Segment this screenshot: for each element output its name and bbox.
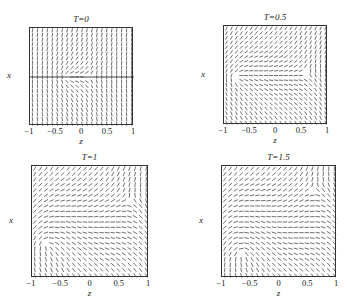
plot-area xyxy=(29,27,133,125)
x-tick-label: 0 xyxy=(273,125,277,135)
x-tick-label: −1 xyxy=(24,126,33,136)
chart-title: T=1.5 xyxy=(267,152,289,162)
director-field xyxy=(224,26,328,125)
x-tick-label: 1 xyxy=(334,278,338,288)
x-tick-label: 0 xyxy=(276,278,280,288)
x-tick-label: 0.5 xyxy=(113,278,124,288)
x-tick-label: −0.5 xyxy=(47,126,62,136)
x-tick-label: 1 xyxy=(146,278,150,288)
x-tick-label: 1 xyxy=(131,126,135,136)
plot-area xyxy=(31,165,148,277)
director-field xyxy=(32,166,149,278)
y-axis-label: x xyxy=(9,215,13,225)
x-tick-label: −1 xyxy=(218,125,227,135)
director-field xyxy=(222,166,337,278)
y-axis-label: x xyxy=(7,70,11,80)
x-tick-label: 0 xyxy=(87,278,91,288)
director-field xyxy=(30,28,134,126)
plot-area xyxy=(221,165,336,277)
chart-title: T=0.5 xyxy=(264,12,286,22)
x-tick-label: 1 xyxy=(325,125,329,135)
x-axis-label: z xyxy=(88,288,92,298)
x-tick-label: −0.5 xyxy=(53,278,68,288)
x-tick-label: −0.5 xyxy=(241,125,256,135)
chart-title: T=0 xyxy=(73,14,89,24)
y-axis-label: x xyxy=(199,215,203,225)
x-tick-label: −1 xyxy=(216,278,225,288)
x-tick-label: −1 xyxy=(26,278,35,288)
chart-title: T=1 xyxy=(82,152,98,162)
plot-area xyxy=(223,25,327,124)
x-tick-label: −0.5 xyxy=(242,278,257,288)
x-tick-label: 0.5 xyxy=(302,278,313,288)
x-axis-label: z xyxy=(273,135,277,145)
x-tick-label: 0.5 xyxy=(102,126,113,136)
x-tick-label: 0.5 xyxy=(296,125,307,135)
y-axis-label: x xyxy=(201,69,205,79)
x-tick-label: 0 xyxy=(79,126,83,136)
x-axis-label: z xyxy=(277,288,281,298)
x-axis-label: z xyxy=(79,136,83,146)
